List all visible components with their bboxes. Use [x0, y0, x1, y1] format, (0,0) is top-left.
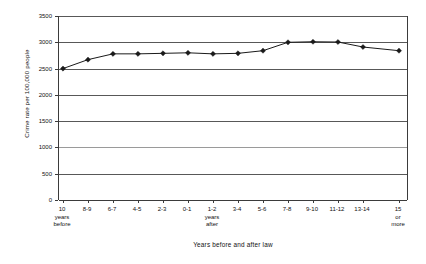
x-tick-label-line: or	[376, 214, 420, 222]
x-tick-label-line: years	[190, 214, 234, 222]
y-tick-label-3500: 3500	[22, 13, 52, 19]
x-axis-title: Years before and after law	[58, 241, 408, 248]
x-tick-mark-6	[213, 200, 214, 203]
plot-area	[58, 16, 408, 200]
x-tick-mark-0	[63, 200, 64, 203]
x-tick-mark-1	[88, 200, 89, 203]
data-point-7	[235, 51, 240, 56]
line-chart: Crime rate per 100,000 people 0500100015…	[0, 0, 426, 264]
x-tick-label-line: years	[40, 214, 84, 222]
series-markers	[60, 39, 401, 71]
y-tick-label-3000: 3000	[22, 39, 52, 45]
x-tick-mark-4	[163, 200, 164, 203]
y-tick-label-0: 0	[22, 197, 52, 203]
series-crime-rate	[59, 16, 409, 200]
data-point-12	[360, 44, 365, 49]
data-point-8	[260, 48, 265, 53]
y-tick-label-2500: 2500	[22, 66, 52, 72]
y-tick-label-2000: 2000	[22, 92, 52, 98]
data-point-11	[335, 39, 340, 44]
x-tick-mark-13	[399, 200, 400, 203]
data-point-5	[185, 50, 190, 55]
x-tick-mark-12	[363, 200, 364, 203]
x-tick-label-line: 15	[376, 206, 420, 214]
x-tick-mark-3	[138, 200, 139, 203]
x-tick-mark-11	[338, 200, 339, 203]
x-tick-mark-10	[313, 200, 314, 203]
x-tick-mark-7	[238, 200, 239, 203]
x-tick-mark-9	[288, 200, 289, 203]
x-tick-mark-2	[113, 200, 114, 203]
data-point-10	[310, 39, 315, 44]
data-point-4	[160, 51, 165, 56]
data-point-2	[110, 51, 115, 56]
data-point-6	[210, 51, 215, 56]
x-tick-label-line: more	[376, 221, 420, 229]
y-tick-label-1000: 1000	[22, 144, 52, 150]
x-tick-mark-5	[188, 200, 189, 203]
x-tick-label-13: 15ormore	[376, 206, 420, 229]
y-tick-label-1500: 1500	[22, 118, 52, 124]
data-point-0	[60, 66, 65, 71]
y-tick-mark-0	[55, 200, 58, 201]
data-point-3	[135, 51, 140, 56]
data-point-1	[85, 57, 90, 62]
data-point-13	[396, 48, 401, 53]
x-tick-label-line: before	[40, 221, 84, 229]
gridline-0	[59, 200, 407, 201]
data-point-9	[285, 40, 290, 45]
y-tick-label-500: 500	[22, 171, 52, 177]
x-tick-label-line: after	[190, 221, 234, 229]
x-tick-mark-8	[263, 200, 264, 203]
